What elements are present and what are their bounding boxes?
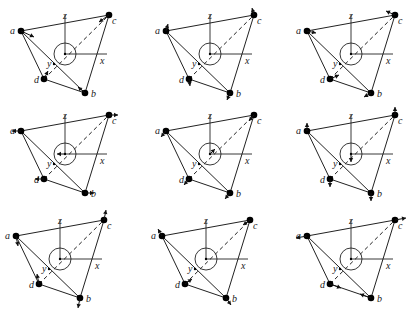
label-z: z bbox=[348, 110, 353, 121]
y-point bbox=[339, 163, 341, 165]
edge-ab bbox=[21, 31, 85, 93]
tetrahedron-modes-figure: abcdzxyabcdzxyabcdzxyabcdzxyabcdzxyabcdz… bbox=[0, 0, 411, 313]
label-y: y bbox=[41, 263, 47, 274]
label-b: b bbox=[91, 88, 96, 99]
label-d: d bbox=[320, 74, 326, 85]
displacement-arrow bbox=[57, 152, 65, 156]
panel-3: abcdzxy bbox=[296, 10, 403, 99]
edge-ab bbox=[307, 131, 371, 193]
label-x: x bbox=[94, 260, 100, 271]
label-z: z bbox=[207, 110, 212, 121]
arrowhead-icon bbox=[227, 300, 231, 305]
label-y: y bbox=[46, 58, 52, 69]
label-c: c bbox=[398, 15, 403, 26]
panel-9: abcdzxy bbox=[296, 215, 406, 304]
label-d: d bbox=[179, 174, 185, 185]
center-point bbox=[59, 258, 61, 260]
label-z: z bbox=[348, 215, 353, 226]
panel-4: abcdzxy bbox=[10, 110, 118, 199]
arrowhead-icon bbox=[349, 158, 353, 162]
edge-db bbox=[44, 79, 85, 93]
arrowhead-icon bbox=[393, 107, 397, 111]
label-x: x bbox=[385, 55, 391, 66]
edge-ab bbox=[21, 131, 85, 193]
edge-ad bbox=[166, 131, 189, 179]
panel-2: abcdzxy bbox=[155, 8, 262, 100]
edge-db bbox=[189, 79, 230, 93]
y-point bbox=[53, 163, 55, 165]
arrowhead-icon bbox=[328, 183, 332, 187]
arrowhead-icon bbox=[99, 18, 104, 22]
label-d: d bbox=[179, 74, 185, 85]
label-a: a bbox=[155, 125, 160, 136]
label-y: y bbox=[332, 158, 338, 169]
arrowhead-icon bbox=[15, 242, 19, 246]
label-b: b bbox=[377, 293, 382, 304]
label-z: z bbox=[207, 10, 212, 21]
label-y: y bbox=[332, 58, 338, 69]
label-b: b bbox=[232, 293, 237, 304]
arrowhead-icon bbox=[369, 197, 373, 201]
label-d: d bbox=[29, 279, 35, 290]
center-point bbox=[350, 53, 352, 55]
y-point bbox=[194, 268, 196, 270]
edge-ab bbox=[162, 236, 226, 298]
label-c: c bbox=[398, 115, 403, 126]
label-c: c bbox=[257, 15, 262, 26]
label-a: a bbox=[155, 25, 160, 36]
label-a: a bbox=[10, 25, 15, 36]
arrowhead-icon bbox=[312, 30, 316, 34]
diagram-canvas: abcdzxyabcdzxyabcdzxyabcdzxyabcdzxyabcdz… bbox=[0, 0, 411, 313]
edge-ad bbox=[307, 131, 330, 179]
label-b: b bbox=[377, 88, 382, 99]
label-y: y bbox=[191, 58, 197, 69]
y-point bbox=[198, 163, 200, 165]
label-x: x bbox=[240, 260, 246, 271]
label-d: d bbox=[34, 74, 40, 85]
y-point bbox=[48, 268, 50, 270]
label-b: b bbox=[236, 188, 241, 199]
label-x: x bbox=[99, 55, 105, 66]
label-z: z bbox=[348, 10, 353, 21]
label-x: x bbox=[99, 155, 105, 166]
label-x: x bbox=[385, 260, 391, 271]
label-z: z bbox=[62, 10, 67, 21]
label-z: z bbox=[57, 215, 62, 226]
y-point bbox=[339, 268, 341, 270]
center-point bbox=[205, 258, 207, 260]
center-point bbox=[64, 53, 66, 55]
label-a: a bbox=[296, 25, 301, 36]
edge-db bbox=[39, 284, 80, 298]
label-y: y bbox=[187, 263, 193, 274]
y-point bbox=[339, 63, 341, 65]
edge-ad bbox=[21, 131, 44, 179]
panel-8: abcdzxy bbox=[151, 215, 258, 305]
edge-ad bbox=[307, 236, 330, 284]
edge-ab bbox=[166, 131, 230, 193]
y-point bbox=[198, 63, 200, 65]
label-y: y bbox=[191, 158, 197, 169]
edge-ab bbox=[166, 31, 230, 93]
label-c: c bbox=[107, 220, 112, 231]
label-d: d bbox=[320, 279, 326, 290]
label-b: b bbox=[377, 188, 382, 199]
label-z: z bbox=[62, 110, 67, 121]
edge-db bbox=[330, 79, 371, 93]
displacement-arrow bbox=[349, 154, 353, 162]
label-y: y bbox=[46, 158, 52, 169]
edge-db bbox=[44, 179, 85, 193]
edge-ad bbox=[166, 31, 189, 79]
label-a: a bbox=[151, 230, 156, 241]
panel-5: abcdzxy bbox=[155, 110, 262, 199]
edge-ad bbox=[162, 236, 185, 284]
edge-ad bbox=[21, 31, 44, 79]
arrowhead-icon bbox=[57, 152, 61, 156]
panel-7: abcdzxy bbox=[5, 210, 112, 308]
label-z: z bbox=[203, 215, 208, 226]
edge-db bbox=[189, 179, 230, 193]
label-y: y bbox=[332, 263, 338, 274]
panel-6: abcdzxy bbox=[296, 107, 403, 201]
label-x: x bbox=[244, 55, 250, 66]
panel-1: abcdzxy bbox=[10, 10, 117, 99]
label-a: a bbox=[296, 125, 301, 136]
